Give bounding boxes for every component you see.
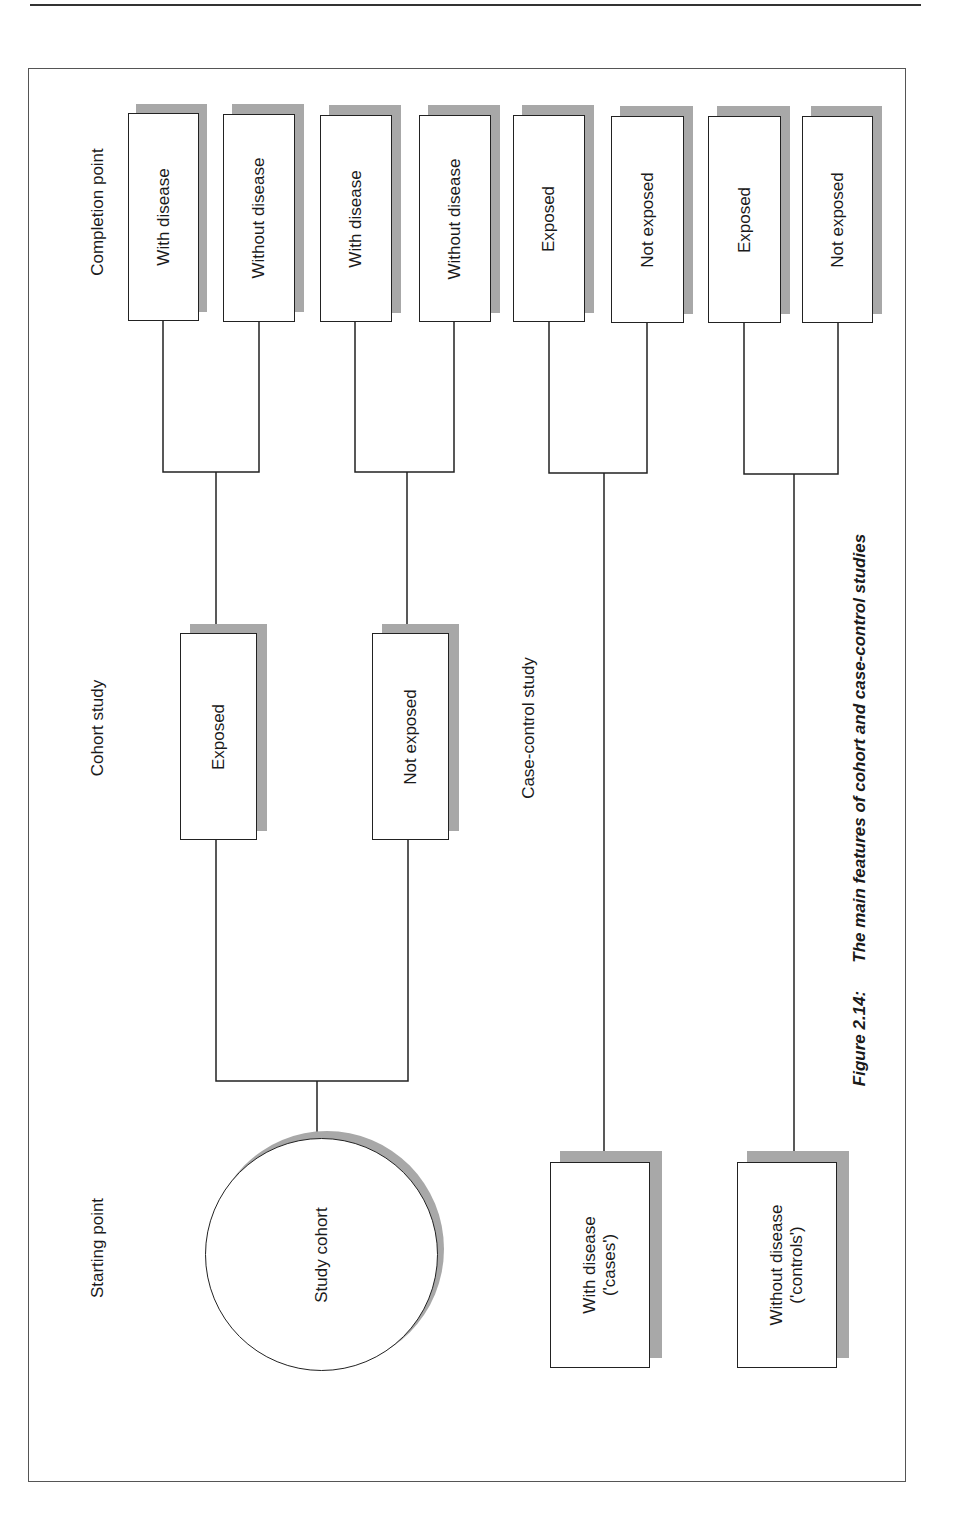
case-box-with-disease: With disease ('cases') (550, 1162, 650, 1368)
figure-title: The main features of cohort and case-con… (850, 534, 869, 963)
heading-case-control-study: Case-control study (519, 657, 539, 799)
completion-box-exposed-1: Exposed (513, 115, 585, 322)
control-box-without-disease: Without disease ('controls') (737, 1162, 837, 1368)
heading-completion-point: Completion point (88, 148, 108, 276)
case-box-line1: With disease (580, 1216, 600, 1313)
control-box-line2: ('controls') (787, 1205, 807, 1326)
completion-box-without-disease-1: Without disease (223, 114, 295, 322)
completion-box-with-disease-2: With disease (320, 115, 392, 322)
heading-starting-point: Starting point (88, 1198, 108, 1298)
completion-box-not-exposed-2: Not exposed (802, 116, 873, 323)
case-box-line2: ('cases') (600, 1216, 620, 1313)
heading-cohort-study: Cohort study (88, 680, 108, 776)
cohort-box-not-exposed: Not exposed (372, 633, 449, 840)
figure-number: Figure 2.14: (850, 991, 869, 1086)
study-cohort-circle: Study cohort (205, 1138, 438, 1371)
completion-box-without-disease-2: Without disease (419, 115, 491, 322)
completion-box-exposed-2: Exposed (708, 116, 781, 323)
completion-box-not-exposed-1: Not exposed (611, 116, 684, 323)
cohort-box-exposed: Exposed (180, 633, 257, 840)
completion-box-with-disease-1: With disease (128, 113, 199, 321)
figure-caption: Figure 2.14:The main features of cohort … (850, 534, 870, 1086)
control-box-line1: Without disease (767, 1205, 787, 1326)
